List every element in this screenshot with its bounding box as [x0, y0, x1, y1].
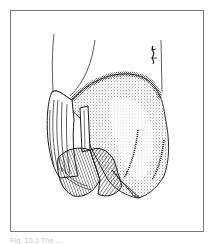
figure-caption: Fig. 10.1 The ... — [10, 237, 62, 244]
figure-illustration — [0, 0, 210, 244]
